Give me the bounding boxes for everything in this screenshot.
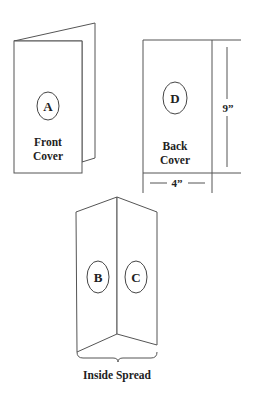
inside-spread-illustration: B C Inside Spread [76,197,157,382]
inside-spread-caption: Inside Spread [83,369,151,382]
front-cover-caption-line2: Cover [33,150,63,162]
height-dimension-label: 9” [223,102,234,114]
brochure-fold-diagram: A Front Cover 9” 4” D Back Cover B C [0,0,253,398]
back-cover-caption-line1: Back [163,140,189,152]
panel-letter-a: A [43,99,53,114]
panel-letter-c: C [131,270,140,285]
spread-brace [77,352,157,362]
width-dimension-label: 4” [172,177,183,189]
panel-letter-d: D [170,91,179,106]
back-cover-illustration: 9” 4” D Back Cover [143,40,241,193]
panel-letter-b: B [94,270,103,285]
front-cover-illustration: A Front Cover [14,23,95,173]
front-cover-caption-line1: Front [34,136,62,148]
back-cover-caption-line2: Cover [160,154,190,166]
